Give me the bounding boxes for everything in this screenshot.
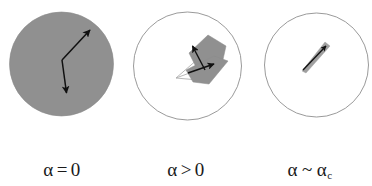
label-value: 0 xyxy=(195,159,205,180)
panel-alpha-zero xyxy=(10,12,114,116)
panel-2-disc xyxy=(134,12,242,120)
panel-alpha-positive xyxy=(134,12,242,120)
label-value: 0 xyxy=(71,159,81,180)
panel-label-alpha-critical: α~αc xyxy=(248,160,372,179)
physics-figure: α=0 α>0 α~αc xyxy=(0,0,372,186)
gray-polygon-lower xyxy=(186,56,228,84)
label-alpha-symbol: α xyxy=(43,159,53,180)
label-relation: ~ xyxy=(302,159,313,180)
panel-label-alpha-zero: α=0 xyxy=(0,160,124,179)
arrow-needle xyxy=(303,46,326,70)
label-alpha-symbol: α xyxy=(287,159,297,180)
label-alpha-symbol: α xyxy=(167,159,177,180)
label-value: α xyxy=(317,159,327,180)
label-subscript: c xyxy=(327,169,332,181)
label-relation: = xyxy=(57,159,68,180)
label-relation: > xyxy=(181,159,192,180)
panel-1-disc xyxy=(10,12,114,116)
panel-3-disc xyxy=(265,13,369,117)
panel-label-alpha-positive: α>0 xyxy=(124,160,248,179)
panel-alpha-critical xyxy=(265,13,369,117)
